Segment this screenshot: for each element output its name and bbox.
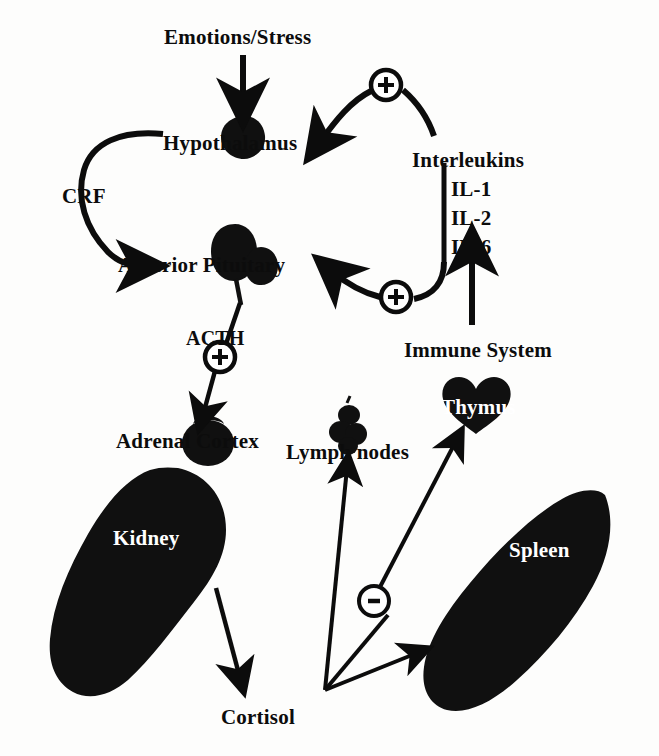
label-adrenal-cortex: Adrenal Cortex <box>116 431 259 452</box>
sign-minus-cortisol-to-immune <box>359 586 389 616</box>
edge-interleukins-to-pituitary-tail <box>414 262 444 299</box>
edge-pituitary-to-adrenal-lower <box>203 371 215 415</box>
label-immune-system: Immune System <box>404 340 552 361</box>
edge-kidney-to-cortisol <box>216 588 240 678</box>
label-kidney: Kidney <box>113 528 180 549</box>
label-thymus: Thymus <box>441 397 516 418</box>
sign-plus-interleukins-to-hypothalamus <box>371 70 401 100</box>
kidney-organ-shape <box>50 467 226 696</box>
label-lymph-nodes: Lymph nodes <box>286 442 409 463</box>
edge-cortisol-to-lymph-nodes <box>325 468 347 690</box>
label-anterior-pituitary: Anterior Pituitary <box>118 255 285 276</box>
edge-interleukins-to-pituitary <box>333 272 380 297</box>
label-cortisol: Cortisol <box>221 707 295 728</box>
edge-interleukins-to-hypothalamus <box>320 91 371 142</box>
label-acth: ACTH <box>186 328 245 348</box>
label-il-1: IL-1 <box>451 179 491 200</box>
label-spleen: Spleen <box>509 540 570 561</box>
edge-interleukins-to-hypothalamus-tail <box>403 90 434 136</box>
spleen-organ-shape <box>423 490 610 711</box>
label-hypothalamus: Hypothalamus <box>163 133 297 154</box>
diagram-canvas: Emotions/Stress Hypothalamus CRF Anterio… <box>0 0 659 756</box>
label-il-2: IL-2 <box>451 208 491 229</box>
label-emotions-stress: Emotions/Stress <box>164 27 311 48</box>
diagram-artwork <box>0 0 659 756</box>
sign-plus-interleukins-to-pituitary <box>381 282 411 312</box>
label-interleukins: Interleukins <box>412 150 524 171</box>
label-crf: CRF <box>62 186 106 207</box>
label-il-6: IL-6 <box>451 237 491 258</box>
